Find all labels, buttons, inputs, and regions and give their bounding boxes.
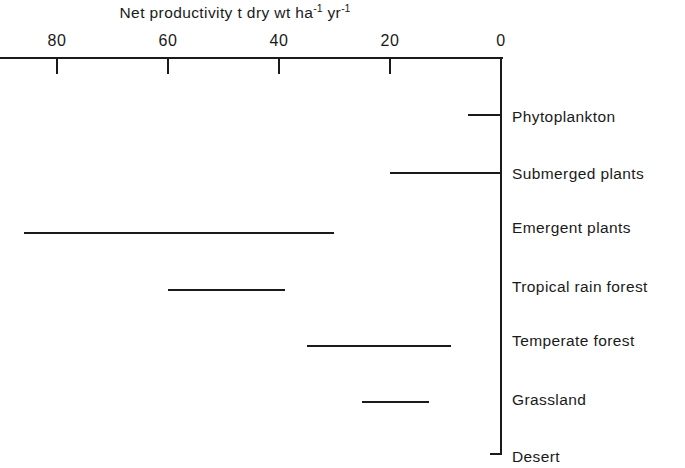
chart-title-mid: yr bbox=[323, 4, 341, 21]
chart-title-superscript-yr: -1 bbox=[341, 2, 350, 14]
category-label: Temperate forest bbox=[512, 332, 635, 350]
range-bar bbox=[362, 401, 429, 403]
category-label: Desert bbox=[512, 448, 560, 466]
category-label: Submerged plants bbox=[512, 165, 644, 183]
category-label: Grassland bbox=[512, 391, 586, 409]
range-bar bbox=[24, 232, 335, 234]
x-axis-tick-40 bbox=[278, 58, 280, 74]
chart-title-lead: Net productivity t dry wt ha bbox=[120, 4, 314, 21]
x-axis-tick-label-20: 20 bbox=[381, 32, 400, 50]
range-bar bbox=[468, 114, 501, 116]
category-label: Tropical rain forest bbox=[512, 278, 648, 296]
category-label: Emergent plants bbox=[512, 219, 631, 237]
range-bar bbox=[490, 453, 501, 455]
net-productivity-range-chart: Net productivity t dry wt ha-1 yr-1 8060… bbox=[0, 0, 685, 468]
category-label: Phytoplankton bbox=[512, 108, 615, 126]
x-axis-tick-label-80: 80 bbox=[48, 32, 67, 50]
y-axis-line bbox=[500, 57, 502, 455]
x-axis-tick-label-0: 0 bbox=[496, 32, 505, 50]
x-axis-tick-20 bbox=[389, 58, 391, 74]
chart-title-superscript-ha: -1 bbox=[313, 2, 322, 14]
x-axis-tick-80 bbox=[56, 58, 58, 74]
x-axis-line bbox=[0, 57, 503, 59]
range-bar bbox=[307, 345, 451, 347]
range-bar bbox=[390, 172, 501, 174]
range-bar bbox=[168, 289, 285, 291]
x-axis-tick-label-40: 40 bbox=[270, 32, 289, 50]
x-axis-tick-60 bbox=[167, 58, 169, 74]
chart-title: Net productivity t dry wt ha-1 yr-1 bbox=[0, 2, 470, 22]
x-axis-tick-label-60: 60 bbox=[159, 32, 178, 50]
